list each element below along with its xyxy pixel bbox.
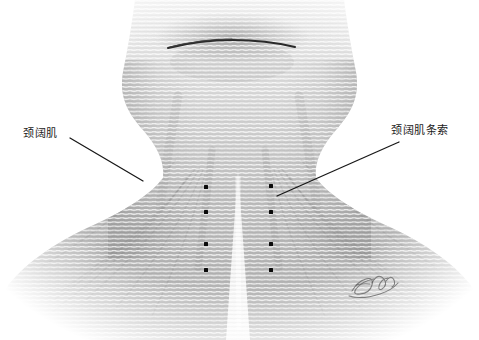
label-platysma: 颈阔肌 xyxy=(23,127,58,140)
injection-point-dot-left-3 xyxy=(204,242,207,245)
label-platysma-bands: 颈阔肌条索 xyxy=(391,124,449,137)
injection-point-dot-right-3 xyxy=(269,242,272,245)
injection-point-dot-right-2 xyxy=(269,210,272,213)
injection-point-dot-left-4 xyxy=(204,268,207,271)
injection-point-dot-right-1 xyxy=(269,184,272,187)
illustration-canvas: 颈阔肌 颈阔肌条索 xyxy=(0,0,479,340)
paper-edge-fade xyxy=(0,0,479,340)
injection-point-dot-right-4 xyxy=(269,268,272,271)
injection-point-dot-left-2 xyxy=(204,210,207,213)
anatomy-figure xyxy=(0,0,479,340)
injection-point-dot-left-1 xyxy=(204,185,207,188)
